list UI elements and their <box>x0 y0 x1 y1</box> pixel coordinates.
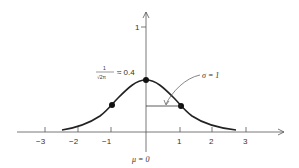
normal-distribution-diagram: 1 −3 −2 −1 1 2 3 σ = 1 1 √2π ≈ 0.4 μ = 0 <box>0 0 299 168</box>
sigma-pointer-arrow <box>166 75 200 104</box>
x-tick-label: −2 <box>69 137 79 146</box>
sigma-label: σ = 1 <box>202 71 219 80</box>
y-tick-label-1: 1 <box>135 23 140 32</box>
x-tick-label: −1 <box>102 137 112 146</box>
point-mu <box>143 77 149 83</box>
x-tick-label: −3 <box>36 137 46 146</box>
normal-curve <box>62 80 236 130</box>
peak-label-denominator: √2π <box>97 74 107 80</box>
mu-label: μ = 0 <box>131 155 149 164</box>
peak-label-numerator: 1 <box>103 65 106 71</box>
x-tick-label: 3 <box>243 137 248 146</box>
peak-label-approx: ≈ 0.4 <box>117 68 135 77</box>
point-minus-sigma <box>109 102 115 108</box>
x-tick-label: 1 <box>177 137 182 146</box>
x-tick-label: 2 <box>209 137 214 146</box>
x-tick-labels: −3 −2 −1 1 2 3 <box>36 137 248 146</box>
